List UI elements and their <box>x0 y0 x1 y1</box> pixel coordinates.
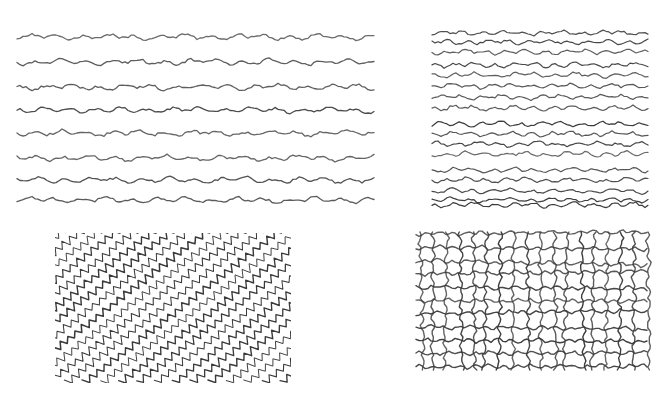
wavy-line <box>17 196 374 203</box>
wavy-line <box>432 197 648 203</box>
wavy-line <box>432 151 648 157</box>
grid-horizontal-line <box>416 245 647 252</box>
wavy-line <box>432 131 648 137</box>
wavy-line <box>432 202 648 208</box>
panel-wavy-grid <box>414 230 650 372</box>
wavy-line <box>17 107 374 114</box>
wavy-line <box>17 176 374 183</box>
zigzag-line <box>154 214 367 382</box>
zigzag-line <box>29 214 242 383</box>
wavy-line <box>432 141 648 147</box>
zigzag-line <box>0 215 153 383</box>
wavy-line <box>17 83 374 91</box>
grid-horizontal-line <box>416 298 647 303</box>
wavy-line <box>432 121 648 127</box>
panel-horizontal-wavy-lines-dense <box>430 25 650 210</box>
wavy-line <box>432 83 648 89</box>
grid-vertical-line <box>443 232 450 370</box>
wavy-line <box>17 58 374 66</box>
wavy-line <box>432 105 648 111</box>
zigzag-line <box>208 214 422 382</box>
wavy-line <box>432 177 648 183</box>
grid-horizontal-line <box>416 309 647 316</box>
zigzag-line <box>190 214 404 382</box>
wavy-line <box>432 72 648 79</box>
panel-drawing <box>414 230 650 372</box>
grid-horizontal-line <box>416 270 647 277</box>
figure-caption <box>0 391 668 404</box>
zigzag-line <box>119 214 332 383</box>
panel-diagonal-zigzag-lines <box>55 233 291 383</box>
panel-drawing <box>15 25 377 210</box>
wavy-line <box>432 62 648 68</box>
grid-vertical-line <box>604 232 610 370</box>
wavy-line <box>17 129 374 137</box>
panel-drawing <box>430 25 650 210</box>
wavy-line <box>432 167 648 173</box>
grid-horizontal-line <box>416 338 647 344</box>
wavy-line <box>432 188 648 195</box>
grid-vertical-line <box>552 232 558 370</box>
grid-horizontal-line <box>416 258 647 267</box>
wavy-line <box>17 34 374 41</box>
zigzag-line <box>137 214 350 382</box>
grid-vertical-line <box>617 232 624 370</box>
zigzag-line <box>172 215 386 383</box>
grid-vertical-line <box>538 232 543 370</box>
zigzag-line <box>226 214 439 383</box>
grid-horizontal-line <box>416 364 647 370</box>
wavy-line <box>17 154 374 162</box>
zigzag-line <box>0 215 116 383</box>
grid-horizontal-line <box>416 325 647 331</box>
zigzag-line <box>0 214 80 382</box>
wavy-line <box>432 39 648 45</box>
wavy-line <box>432 94 648 100</box>
grid-horizontal-line <box>416 285 647 291</box>
panel-drawing <box>55 233 291 383</box>
grid-horizontal-line <box>416 351 647 356</box>
grid-vertical-line <box>418 232 425 370</box>
wavy-line <box>432 30 648 36</box>
grid-horizontal-line <box>416 230 647 237</box>
panel-horizontal-wavy-lines-sparse <box>15 25 377 210</box>
zigzag-line <box>0 214 134 383</box>
wavy-line <box>432 49 648 55</box>
